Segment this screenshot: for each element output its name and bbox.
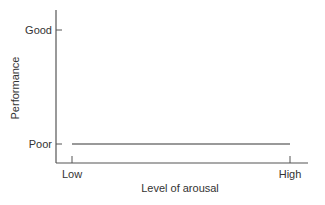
x-tick-label-high: High	[279, 168, 302, 180]
x-tick-label-low: Low	[62, 168, 82, 180]
x-axis-label: Level of arousal	[141, 182, 219, 194]
y-axis-label: Performance	[9, 57, 21, 120]
y-tick-label-poor: Poor	[29, 138, 53, 150]
y-tick-label-good: Good	[25, 24, 52, 36]
chart: Good Poor Low High Level of arousal Perf…	[0, 0, 325, 205]
